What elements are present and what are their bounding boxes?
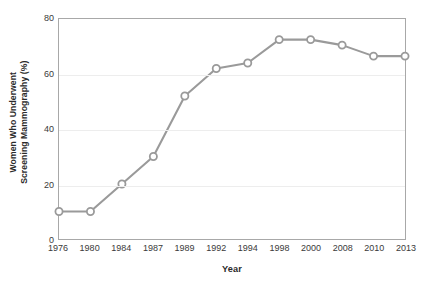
y-axis-title-line-1: Women Who Underwent — [9, 61, 20, 184]
x-tick-label-1980: 1980 — [80, 243, 100, 253]
x-tick-label-1984: 1984 — [111, 243, 131, 253]
x-tick-label-2010: 2010 — [364, 243, 384, 253]
gridline-40 — [59, 130, 405, 131]
data-point-1989 — [181, 92, 188, 99]
x-tick-label-1976: 1976 — [48, 243, 68, 253]
y-axis-title: Women Who Underwent Screening Mammograph… — [6, 0, 34, 245]
data-point-2013 — [401, 53, 408, 60]
y-tick-label-20: 20 — [32, 180, 54, 190]
x-tick-label-2008: 2008 — [333, 243, 353, 253]
x-tick-label-1998: 1998 — [269, 243, 289, 253]
y-tick-label-40: 40 — [32, 124, 54, 134]
y-axis-title-line-2: Screening Mammography (%) — [20, 61, 31, 184]
y-tick-label-80: 80 — [32, 13, 54, 23]
data-point-2000 — [307, 36, 314, 43]
x-tick-label-1994: 1994 — [238, 243, 258, 253]
data-series-svg — [59, 19, 405, 239]
gridline-60 — [59, 75, 405, 76]
y-tick-label-60: 60 — [32, 69, 54, 79]
data-point-2010 — [370, 53, 377, 60]
data-point-1992 — [213, 65, 220, 72]
data-point-markers — [55, 36, 408, 215]
plot-area — [58, 18, 406, 240]
x-tick-label-1989: 1989 — [175, 243, 195, 253]
data-point-1998 — [276, 36, 283, 43]
gridline-20 — [59, 186, 405, 187]
data-point-2008 — [339, 42, 346, 49]
x-tick-label-2013: 2013 — [396, 243, 416, 253]
x-tick-label-1987: 1987 — [143, 243, 163, 253]
data-point-1976 — [55, 208, 62, 215]
x-tick-label-2000: 2000 — [301, 243, 321, 253]
x-axis-tick-labels: 1976198019841987198919921994199820002008… — [58, 243, 406, 259]
data-point-1994 — [244, 59, 251, 66]
data-point-1987 — [150, 153, 157, 160]
mammography-screening-line-chart: Women Who Underwent Screening Mammograph… — [0, 0, 427, 288]
x-tick-label-1992: 1992 — [206, 243, 226, 253]
x-axis-title: Year — [58, 264, 406, 274]
data-point-1980 — [87, 208, 94, 215]
